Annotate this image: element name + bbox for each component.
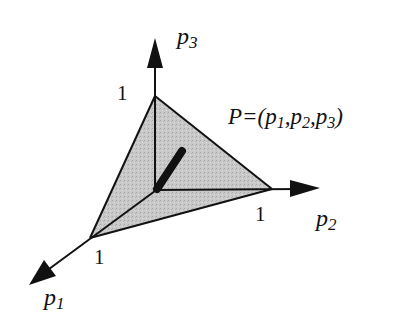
axis-label-p3: p3 — [175, 23, 198, 52]
axis-label-p2: p2 — [314, 205, 337, 234]
tick-p3: 1 — [117, 81, 128, 105]
axis-label-p1: p1 — [42, 284, 65, 313]
tick-p1: 1 — [94, 245, 105, 269]
simplex-diagram: 1 1 1 p3 p2 p1 P=(p1,p2,p3) — [0, 0, 405, 328]
arrowhead-icon — [29, 260, 56, 285]
arrowhead-icon — [290, 180, 320, 197]
point-label: P=(p1,p2,p3) — [227, 104, 343, 131]
axis-p1 — [29, 191, 155, 285]
arrowhead-icon — [147, 38, 163, 68]
tick-p2: 1 — [255, 202, 266, 226]
